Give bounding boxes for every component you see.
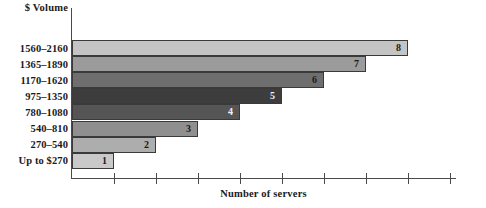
bar-value-label: 3 — [186, 124, 197, 134]
bar: 6 — [72, 72, 324, 88]
plot-area: 87654321 — [72, 40, 472, 178]
bar-value-label: 1 — [102, 156, 113, 166]
bar-value-label: 4 — [228, 107, 239, 117]
bar: 7 — [72, 56, 366, 72]
bar: 2 — [72, 137, 156, 153]
bar-value-label: 2 — [144, 140, 155, 150]
bar-row: 5 — [72, 88, 282, 104]
bar: 3 — [72, 121, 198, 137]
bar-row: 7 — [72, 56, 366, 72]
bar: 8 — [72, 40, 408, 56]
bar-row: 8 — [72, 40, 408, 56]
category-label: 540–810 — [0, 123, 68, 134]
bar-row: 2 — [72, 137, 156, 153]
category-label: 1560–2160 — [0, 43, 68, 54]
category-label: 1365–1890 — [0, 59, 68, 70]
x-axis-title: Number of servers — [71, 188, 456, 199]
bar-chart: $ Volume 87654321 1560–21601365–18901170… — [0, 0, 486, 208]
category-label: 270–540 — [0, 139, 68, 150]
bar: 5 — [72, 88, 282, 104]
x-axis-line — [71, 178, 456, 179]
bar-value-label: 6 — [312, 75, 323, 85]
bar-row: 6 — [72, 72, 324, 88]
category-label: 975–1350 — [0, 91, 68, 102]
bar-value-label: 5 — [270, 91, 281, 101]
y-axis-title: $ Volume — [0, 2, 68, 13]
category-label: 780–1080 — [0, 107, 68, 118]
category-label: Up to $270 — [0, 155, 68, 166]
bar-row: 1 — [72, 153, 114, 169]
bar-value-label: 7 — [354, 59, 365, 69]
bar-value-label: 8 — [396, 43, 407, 53]
bar-row: 3 — [72, 121, 198, 137]
bar: 4 — [72, 104, 240, 120]
bar: 1 — [72, 153, 114, 169]
category-label: 1170–1620 — [0, 75, 68, 86]
bar-row: 4 — [72, 104, 240, 120]
